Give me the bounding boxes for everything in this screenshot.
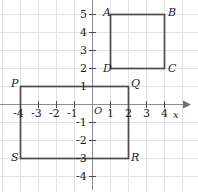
x-tick-label--4: -4 bbox=[13, 108, 24, 119]
vertex-label-s: S bbox=[11, 152, 19, 163]
coordinate-plane-figure: A B C D P Q R S O x -4 -3 -2 -1 1 2 3 4 … bbox=[0, 0, 198, 192]
grid-lines-horizontal bbox=[0, 15, 198, 177]
x-tick-label-3: 3 bbox=[143, 108, 150, 119]
y-tick-label--1: -1 bbox=[76, 117, 87, 128]
y-tick-label-3: 3 bbox=[80, 45, 87, 56]
y-tick-label-4: 4 bbox=[80, 27, 87, 38]
x-tick-label-4: 4 bbox=[161, 108, 168, 119]
origin-label: O bbox=[94, 106, 102, 116]
x-axis-arrow bbox=[183, 101, 191, 109]
vertex-label-r: R bbox=[131, 152, 139, 163]
vertex-label-c: C bbox=[168, 63, 176, 74]
vertex-label-a: A bbox=[103, 7, 111, 18]
graph-canvas bbox=[0, 0, 198, 192]
x-axis-label: x bbox=[173, 110, 179, 120]
y-tick-label-2: 2 bbox=[80, 63, 87, 74]
square-abcd bbox=[111, 15, 165, 69]
vertex-label-b: B bbox=[168, 7, 176, 18]
x-tick-label--3: -3 bbox=[31, 108, 42, 119]
y-tick-label--4: -4 bbox=[76, 171, 87, 182]
y-tick-label-1: 1 bbox=[80, 81, 87, 92]
vertex-label-p: P bbox=[11, 78, 18, 89]
y-tick-label--2: -2 bbox=[76, 135, 87, 146]
y-tick-label-5: 5 bbox=[80, 9, 87, 20]
vertex-label-q: Q bbox=[131, 78, 140, 89]
y-tick-label--3: -3 bbox=[76, 153, 87, 164]
x-tick-label-2: 2 bbox=[125, 108, 132, 119]
vertex-label-d: D bbox=[103, 63, 112, 74]
axes bbox=[0, 0, 184, 190]
x-tick-label-1: 1 bbox=[107, 108, 114, 119]
x-tick-label--2: -2 bbox=[49, 108, 60, 119]
